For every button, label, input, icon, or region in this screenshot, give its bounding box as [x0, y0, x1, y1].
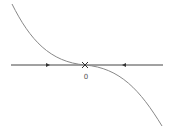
arrow-right-icon [46, 63, 50, 67]
arrow-left-icon [122, 63, 126, 67]
phase-line-diagram [0, 0, 170, 131]
origin-label: 0 [82, 73, 90, 81]
